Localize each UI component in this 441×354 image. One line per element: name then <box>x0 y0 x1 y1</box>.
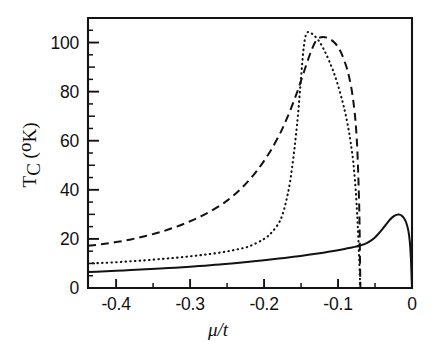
y-tick-label: 80 <box>60 82 80 102</box>
y-axis-tick-labels: 020406080100 <box>50 33 79 298</box>
y-tick-label: 20 <box>60 229 80 249</box>
y-axis-title-kelvin: K) <box>19 123 41 143</box>
plot-frame <box>88 18 412 288</box>
x-tick-label: -0.3 <box>175 294 204 314</box>
y-axis-title: TC (oK) <box>14 123 44 188</box>
y-axis-title-sub: C <box>23 163 44 176</box>
y-tick-label: 0 <box>69 278 79 298</box>
svg-text:TC (oK): TC (oK) <box>14 123 44 188</box>
chart-svg: 020406080100 -0.4-0.3-0.2-0.10 TC (oK) μ… <box>0 0 441 354</box>
series-solid-curve <box>88 214 412 288</box>
x-axis-tick-labels: -0.4-0.3-0.2-0.10 <box>101 294 417 314</box>
y-tick-label: 100 <box>50 33 79 53</box>
series-dashed-curve <box>88 37 360 288</box>
series-dotted-curve <box>88 32 360 288</box>
y-axis-title-degree: o <box>14 143 35 153</box>
y-tick-label: 40 <box>60 180 80 200</box>
figure-canvas: 020406080100 -0.4-0.3-0.2-0.10 TC (oK) μ… <box>0 0 441 354</box>
data-series-group <box>88 32 412 288</box>
x-tick-label: -0.4 <box>101 294 131 314</box>
x-tick-label: -0.2 <box>249 294 278 314</box>
x-tick-label: 0 <box>407 294 417 314</box>
y-axis-title-main: T <box>19 175 40 187</box>
y-tick-label: 60 <box>60 131 80 151</box>
axes-box <box>88 18 412 288</box>
x-axis-title: μ/t <box>207 319 229 340</box>
y-axis-ticks <box>88 30 99 288</box>
x-tick-label: -0.1 <box>323 294 352 314</box>
x-axis-ticks <box>116 279 412 288</box>
